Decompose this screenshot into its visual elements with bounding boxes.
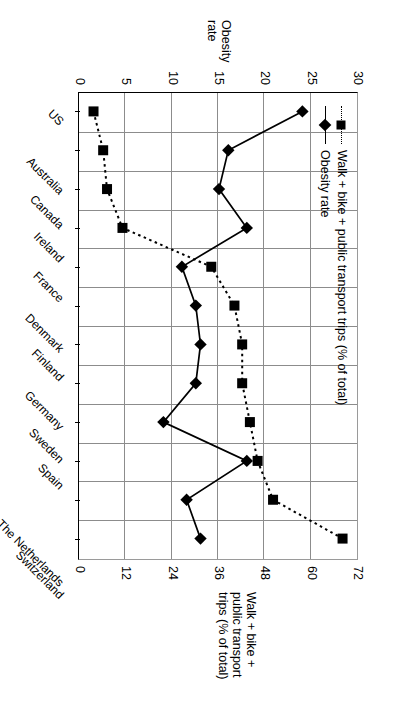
diamond-marker-icon <box>190 299 202 311</box>
square-marker-icon <box>229 301 239 311</box>
square-marker-icon <box>89 106 99 116</box>
primary-tick-label: 0 <box>74 78 87 85</box>
category-tick <box>75 461 80 462</box>
diamond-marker-icon <box>180 494 192 506</box>
rotated-chart-wrapper: 051015202530 0122436486072 USAustraliaCa… <box>0 0 415 702</box>
diamond-marker-icon <box>213 183 225 195</box>
diamond-marker-icon <box>318 119 331 132</box>
square-marker-icon <box>102 184 112 194</box>
series-line-2 <box>94 111 343 538</box>
legend-item-walk-bike-transit: Walk + bike + public transport trips (% … <box>335 106 349 405</box>
category-tick <box>75 539 80 540</box>
square-marker-icon <box>253 456 263 466</box>
primary-tick-label: 10 <box>166 71 179 85</box>
legend-label: Obesity rate <box>318 150 332 217</box>
square-marker-icon <box>206 262 216 272</box>
diamond-marker-icon <box>222 144 234 156</box>
diamond-marker-icon <box>176 261 188 273</box>
category-tick <box>75 189 80 190</box>
secondary-tick-label: 48 <box>259 566 272 580</box>
diamond-marker-icon <box>194 532 206 544</box>
square-marker-icon <box>268 495 278 505</box>
diamond-marker-icon <box>241 455 253 467</box>
category-tick <box>75 306 80 307</box>
legend-label: Walk + bike + public transport trips (% … <box>335 150 349 405</box>
legend-line-dotted <box>341 106 342 144</box>
primary-tick-label: 20 <box>259 71 272 85</box>
square-marker-icon <box>237 339 247 349</box>
primary-tick-label: 25 <box>305 71 318 85</box>
legend-item-obesity-rate: Obesity rate <box>318 106 332 217</box>
secondary-tick-label: 36 <box>213 566 226 580</box>
secondary-tick-label: 24 <box>166 566 179 580</box>
secondary-tick-label: 12 <box>120 566 133 580</box>
legend-line-solid <box>325 106 326 144</box>
square-marker-icon <box>337 121 346 130</box>
category-tick <box>75 344 80 345</box>
category-tick <box>75 500 80 501</box>
diamond-marker-icon <box>194 338 206 350</box>
category-tick <box>75 422 80 423</box>
secondary-tick-label: 60 <box>305 566 318 580</box>
category-tick <box>75 267 80 268</box>
category-tick <box>75 111 80 112</box>
secondary-axis-title: Walk + bike + public transport trips (% … <box>215 592 258 680</box>
series-line-1 <box>163 111 302 538</box>
primary-axis-title: Obesity rate <box>204 20 233 62</box>
square-marker-icon <box>98 145 108 155</box>
primary-tick-label: 15 <box>213 71 226 85</box>
secondary-tick-label: 72 <box>352 566 365 580</box>
diamond-marker-icon <box>296 105 308 117</box>
square-marker-icon <box>338 534 348 544</box>
category-tick <box>75 383 80 384</box>
primary-tick-label: 5 <box>120 78 133 85</box>
diamond-marker-icon <box>241 222 253 234</box>
secondary-tick-label: 0 <box>74 566 87 573</box>
chart-canvas: 051015202530 0122436486072 USAustraliaCa… <box>0 0 415 702</box>
square-marker-icon <box>237 378 247 388</box>
square-marker-icon <box>245 417 255 427</box>
square-marker-icon <box>117 223 127 233</box>
series-layer <box>0 0 415 702</box>
primary-tick-label: 30 <box>352 71 365 85</box>
category-tick <box>75 228 80 229</box>
category-tick <box>75 150 80 151</box>
